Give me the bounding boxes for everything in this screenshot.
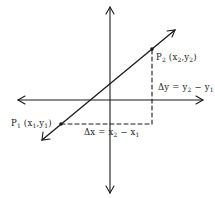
p1-label: P1 (x1,y1) <box>11 119 52 129</box>
point-p1 <box>59 122 63 126</box>
p1-sub: 1 <box>17 122 21 129</box>
slope-diagram <box>0 0 215 198</box>
delta-x-label: Δx = x2 − x1 <box>84 128 140 138</box>
p1-coords-close: ) <box>48 118 52 128</box>
p2-label: P2 (x2,y2) <box>156 53 197 63</box>
delta-y-prefix: Δy = y <box>158 82 187 92</box>
delta-x-prefix: Δx = x <box>84 127 113 137</box>
delta-y-sub2: 1 <box>210 86 214 93</box>
p2-sub: 2 <box>162 56 166 63</box>
p2-coords-close: ) <box>193 52 197 62</box>
delta-x-sub2: 1 <box>136 131 140 138</box>
delta-y-label: Δy = y2 − y1 <box>158 83 214 93</box>
delta-y-mid: − y <box>192 82 210 92</box>
point-p2 <box>150 47 154 51</box>
delta-x-mid: − x <box>117 127 135 137</box>
